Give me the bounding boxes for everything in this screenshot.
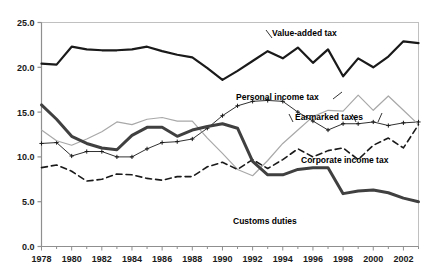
x-tick-label: 1998 bbox=[333, 254, 353, 264]
x-tick-label: 1990 bbox=[212, 254, 232, 264]
y-tick-label: 5.0 bbox=[22, 197, 35, 207]
x-tick-label: 2000 bbox=[363, 254, 383, 264]
x-tick-label: 1980 bbox=[62, 254, 82, 264]
x-tick-label: 1984 bbox=[122, 254, 142, 264]
x-tick-label: 1994 bbox=[273, 254, 293, 264]
y-tick-label: 20.0 bbox=[17, 63, 35, 73]
x-tick-label: 1982 bbox=[92, 254, 112, 264]
y-tick-label: 25.0 bbox=[17, 18, 35, 28]
series-label: Corporate income tax bbox=[301, 155, 389, 165]
series-label: Personal income tax bbox=[236, 92, 319, 102]
y-tick-label: 10.0 bbox=[17, 152, 35, 162]
x-tick-label: 1986 bbox=[152, 254, 172, 264]
x-tick-label: 1992 bbox=[243, 254, 263, 264]
y-tick-label: 0.0 bbox=[22, 242, 35, 252]
chart-background bbox=[0, 0, 437, 273]
tax-revenue-line-chart: 0.05.010.015.020.025.0 19781980198219841… bbox=[0, 0, 437, 273]
chart-canvas: 0.05.010.015.020.025.0 19781980198219841… bbox=[0, 0, 437, 273]
x-tick-label: 1996 bbox=[303, 254, 323, 264]
series-label: Value-added tax bbox=[272, 28, 337, 38]
y-tick-label: 15.0 bbox=[17, 108, 35, 118]
x-tick-label: 1988 bbox=[182, 254, 202, 264]
x-tick-label: 2002 bbox=[393, 254, 413, 264]
x-tick-label: 1978 bbox=[31, 254, 51, 264]
series-label: Customs duties bbox=[233, 216, 297, 226]
